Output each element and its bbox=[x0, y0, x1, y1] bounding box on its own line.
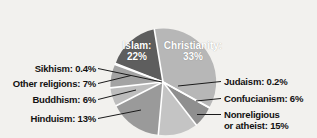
slice-label-christianity-name: Christianity: bbox=[162, 40, 224, 51]
callout-label-judaism: Judaism: 0.2% bbox=[224, 76, 287, 87]
slice-label-christianity: Christianity: 33% bbox=[162, 40, 224, 62]
slice-label-christianity-value: 33% bbox=[162, 51, 224, 62]
callout-label-sikhism: Sikhism: 0.4% bbox=[35, 63, 96, 74]
slice-label-islam-name: Islam: bbox=[114, 40, 160, 51]
callout-label-other-religions: Other religions: 7% bbox=[13, 78, 96, 89]
slice-label-islam-value: 22% bbox=[114, 51, 160, 62]
callout-label-nonreligious-line1: Nonreligious bbox=[224, 109, 317, 120]
callout-label-nonreligious-line2: or atheist: 15% bbox=[224, 120, 317, 131]
callout-label-buddhism: Buddhism: 6% bbox=[32, 94, 96, 105]
callout-label-hinduism: Hinduism: 13% bbox=[31, 113, 97, 124]
chart-container: Islam: 22% Christianity: 33% Sikhism: 0.… bbox=[0, 0, 317, 138]
callout-label-confucianism: Confucianism: 6% bbox=[224, 93, 303, 104]
slice-label-islam: Islam: 22% bbox=[114, 40, 160, 62]
callout-label-nonreligious: Nonreligious or atheist: 15% bbox=[224, 109, 317, 131]
